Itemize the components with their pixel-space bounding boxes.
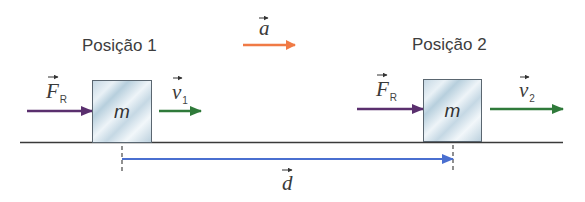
velocity-symbol-2: v2 <box>519 80 534 101</box>
mass-label-2: m <box>424 99 481 121</box>
physics-diagram: Posição 1 Posição 2 a FR v1 FR v2 d m m <box>0 0 585 202</box>
velocity-symbol-1: v1 <box>172 82 187 103</box>
mass-label-1: m <box>93 100 151 122</box>
position-1-label: Posição 1 <box>82 36 157 56</box>
acceleration-symbol: a <box>259 18 270 39</box>
force-symbol-2: FR <box>376 79 396 100</box>
block-position-1: m <box>92 80 152 143</box>
force-symbol-1: FR <box>46 81 66 102</box>
block-position-2: m <box>423 79 482 142</box>
position-2-label: Posição 2 <box>412 35 487 55</box>
displacement-symbol: d <box>282 173 293 194</box>
